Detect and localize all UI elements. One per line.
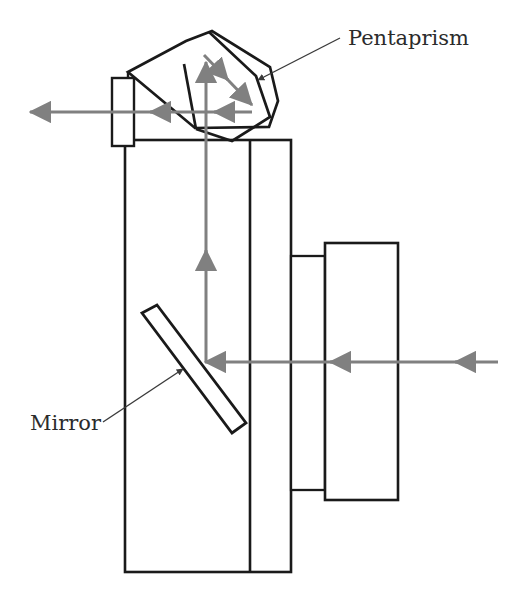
lens-inner-barrel xyxy=(291,256,325,490)
lens-outer-barrel xyxy=(325,243,398,500)
camera-body xyxy=(125,140,291,572)
mirror-label: Mirror xyxy=(30,411,102,435)
lens-group xyxy=(291,243,398,500)
pentaprism-group xyxy=(128,31,278,141)
diagram-root: Pentaprism Mirror xyxy=(0,0,513,595)
pentaprism-label: Pentaprism xyxy=(348,26,469,50)
camera-cross-section-diagram: Pentaprism Mirror xyxy=(0,0,513,595)
pentaprism-leader-line xyxy=(258,38,340,80)
camera-body-group xyxy=(125,140,291,572)
